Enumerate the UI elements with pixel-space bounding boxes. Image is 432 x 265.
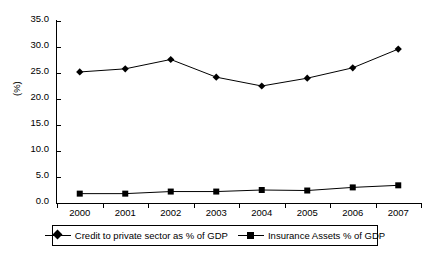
legend-entry-insurance[interactable]: Insurance Assets % of GDP xyxy=(233,231,390,241)
chart-figure: (%) 35.030.025.020.015.010.05.00.0 20002… xyxy=(0,0,432,265)
chart-legend: Credit to private sector as % of GDP Ins… xyxy=(52,225,378,246)
data-point-diamond xyxy=(349,64,356,71)
data-point-diamond xyxy=(304,75,311,82)
series-insurance xyxy=(77,182,402,196)
data-point-diamond xyxy=(395,45,402,52)
square-marker-icon xyxy=(238,231,264,240)
series-credit xyxy=(76,45,402,89)
data-point-diamond xyxy=(167,56,174,63)
data-point-diamond xyxy=(76,68,83,75)
data-point-diamond xyxy=(122,65,129,72)
diamond-marker-icon xyxy=(45,231,71,240)
data-point-square xyxy=(350,184,356,190)
data-point-square xyxy=(395,182,401,188)
data-point-square xyxy=(259,187,265,193)
data-point-square xyxy=(122,191,128,197)
data-point-square xyxy=(77,191,83,197)
data-point-square xyxy=(213,189,219,195)
data-point-square xyxy=(168,189,174,195)
data-point-square xyxy=(304,188,310,194)
legend-entry-credit[interactable]: Credit to private sector as % of GDP xyxy=(40,231,233,241)
data-point-diamond xyxy=(258,82,265,89)
legend-label-credit: Credit to private sector as % of GDP xyxy=(75,231,228,241)
legend-label-insurance: Insurance Assets % of GDP xyxy=(268,231,385,241)
data-point-diamond xyxy=(213,74,220,81)
